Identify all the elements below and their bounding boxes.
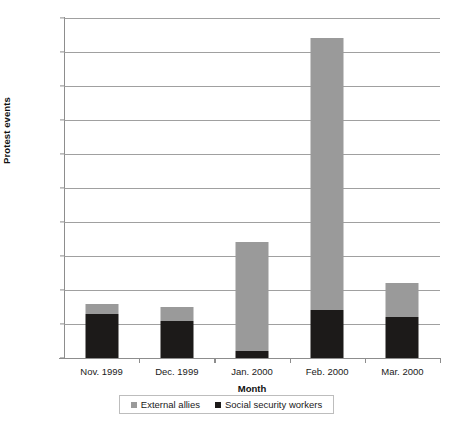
bar-segment-external-allies <box>386 283 419 317</box>
legend-item-social-security-workers: Social security workers <box>215 399 322 410</box>
protest-events-stacked-bar-chart: Protest events 0102030405060708090100 No… <box>0 0 451 431</box>
bar-segment-social-security-workers <box>236 351 269 358</box>
y-tick-mark <box>60 289 65 290</box>
gridline <box>64 358 440 359</box>
bar-stack <box>160 307 193 358</box>
bar-segment-social-security-workers <box>386 317 419 358</box>
y-tick-mark <box>60 153 65 154</box>
bar-segment-social-security-workers <box>311 310 344 358</box>
legend-swatch-icon <box>215 402 221 408</box>
y-tick-mark <box>60 255 65 256</box>
y-tick-mark <box>60 357 65 358</box>
gridline <box>64 52 440 53</box>
gridline <box>64 86 440 87</box>
y-tick-mark <box>60 187 65 188</box>
bar-segment-external-allies <box>160 307 193 321</box>
y-tick-mark <box>60 85 65 86</box>
y-axis-title: Protest events <box>1 150 12 164</box>
legend-item-external-allies: External allies <box>131 399 200 410</box>
bar-segment-external-allies <box>236 242 269 351</box>
gridline <box>64 222 440 223</box>
y-tick-mark <box>60 323 65 324</box>
legend-label: External allies <box>141 399 200 410</box>
bar-stack <box>85 304 118 358</box>
plot-area: 0102030405060708090100 Nov. 1999Dec. 199… <box>64 18 440 358</box>
legend-swatch-icon <box>131 402 137 408</box>
bar-segment-social-security-workers <box>85 314 118 358</box>
gridline <box>64 18 440 19</box>
x-tick-mark <box>290 358 291 363</box>
bar-stack <box>311 38 344 358</box>
bar-stack <box>386 283 419 358</box>
gridline <box>64 188 440 189</box>
x-tick-mark <box>139 358 140 363</box>
x-tick-mark <box>440 358 441 363</box>
bar-stack <box>236 242 269 358</box>
y-tick-mark <box>60 221 65 222</box>
legend-label: Social security workers <box>225 399 322 410</box>
gridline <box>64 120 440 121</box>
bar-segment-external-allies <box>311 38 344 310</box>
chart-legend: External allies Social security workers <box>119 395 334 414</box>
x-tick-label: Mar. 2000 <box>357 366 447 377</box>
y-tick-mark <box>60 51 65 52</box>
x-tick-mark <box>214 358 215 363</box>
x-tick-mark <box>365 358 366 363</box>
y-tick-mark <box>60 17 65 18</box>
bar-segment-social-security-workers <box>160 321 193 358</box>
x-axis-title: Month <box>64 383 440 394</box>
bar-segment-external-allies <box>85 304 118 314</box>
gridline <box>64 154 440 155</box>
y-tick-mark <box>60 119 65 120</box>
